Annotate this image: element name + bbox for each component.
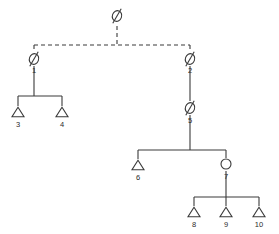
node-label-5: 5 [188,116,192,125]
pedigree-node-3[interactable]: 3 [12,107,24,129]
node-label-7: 7 [224,172,228,181]
triangle-symbol-icon [56,107,68,117]
node-label-4: 4 [60,120,64,129]
node-label-3: 3 [16,120,20,129]
pedigree-node-7[interactable]: 7 [221,159,231,181]
pedigree-canvas: 12345678910 [0,0,279,234]
pedigree-node-5[interactable]: 5 [184,101,196,125]
node-label-8: 8 [192,220,196,229]
node-label-1: 1 [32,66,36,75]
node-label-9: 9 [224,220,228,229]
pedigree-node-4[interactable]: 4 [56,107,68,129]
pedigree-node-10[interactable]: 10 [253,207,265,229]
node-layer: 12345678910 [12,9,265,229]
pedigree-node-6[interactable]: 6 [132,160,144,182]
node-label-6: 6 [136,173,140,182]
circle-symbol-icon [221,159,231,169]
pedigree-node-2[interactable]: 2 [184,52,196,75]
pedigree-node-root[interactable] [111,9,123,23]
node-label-2: 2 [188,66,192,75]
triangle-symbol-icon [253,207,265,217]
pedigree-node-1[interactable]: 1 [28,52,40,75]
triangle-symbol-icon [132,160,144,170]
node-label-10: 10 [255,220,263,229]
triangle-symbol-icon [12,107,24,117]
triangle-symbol-icon [220,207,232,217]
pedigree-node-9[interactable]: 9 [220,207,232,229]
pedigree-node-8[interactable]: 8 [188,207,200,229]
triangle-symbol-icon [188,207,200,217]
pedigree-diagram: 12345678910 [0,0,279,234]
